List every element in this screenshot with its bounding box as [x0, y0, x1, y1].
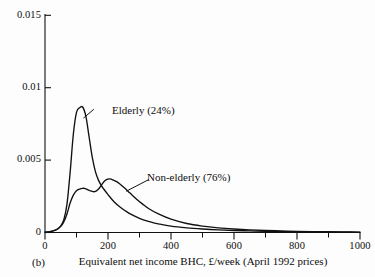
x-tick-label-600: 600: [214, 240, 254, 251]
x-tick-label-800: 800: [277, 240, 317, 251]
x-tick-label-1000: 1000: [340, 240, 375, 251]
x-axis-minor-ticks: [77, 233, 329, 238]
x-tick-label-400: 400: [151, 240, 191, 251]
figure-panel-b: 0.015 0.01 0.005 0 0 200 400 600 800 100…: [0, 0, 375, 277]
y-tick-label-0.005: 0.005: [2, 153, 41, 164]
y-tick-label-0: 0: [2, 226, 41, 237]
y-axis-ticks: [45, 15, 51, 232]
y-tick-label-0.015: 0.015: [2, 9, 41, 20]
annotation-non-elderly: Non-elderly (76%): [147, 171, 230, 183]
curve-non-elderly: [45, 179, 360, 232]
x-tick-label-0: 0: [25, 240, 65, 251]
x-axis-caption: Equivalent net income BHC, £/week (April…: [45, 255, 361, 267]
annotation-elderly: Elderly (24%): [112, 104, 175, 116]
y-tick-label-0.01: 0.01: [2, 81, 41, 92]
x-tick-label-200: 200: [88, 240, 128, 251]
leader-line-non-elderly: [126, 179, 149, 191]
panel-label: (b): [32, 256, 45, 268]
curve-elderly: [45, 107, 360, 233]
chart-canvas: [0, 0, 375, 277]
